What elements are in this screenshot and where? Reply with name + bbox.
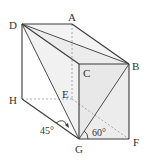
vertex-label-g: G: [75, 143, 83, 155]
vertex-label-d: D: [9, 19, 17, 31]
vertex-label-e: E: [62, 88, 69, 100]
prism-diagram: A B C D E F G H 45° 60°: [0, 0, 148, 160]
vertex-label-c: C: [83, 67, 90, 79]
vertex-label-b: B: [132, 60, 139, 72]
angle-label-45: 45°: [40, 125, 54, 136]
vertex-label-f: F: [133, 136, 139, 148]
angle-label-60: 60°: [92, 127, 106, 138]
vertex-label-a: A: [68, 11, 76, 23]
vertex-label-h: H: [9, 94, 17, 106]
